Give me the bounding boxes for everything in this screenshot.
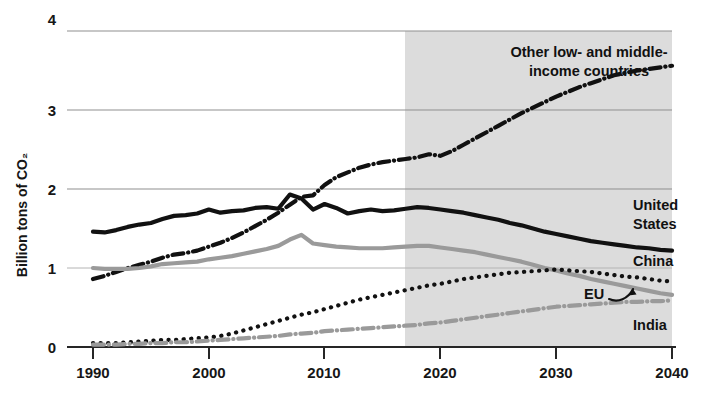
india-label: India: [633, 317, 668, 333]
y-axis-title: Billion tons of CO₂: [14, 153, 30, 277]
united-states-label-line2: States: [633, 216, 677, 232]
xtick-label-2000: 2000: [192, 364, 225, 381]
eu-label: EU: [584, 286, 604, 302]
chart-canvas: 1990 2000 2010 2020 2030 2040 0 1 2 3 4 …: [0, 0, 705, 409]
ytick-label-1: 1: [48, 260, 56, 277]
xtick-label-2030: 2030: [539, 364, 572, 381]
y-axis: 0 1 2 3 4 Billion tons of CO₂: [14, 11, 57, 356]
x-axis: 1990 2000 2010 2020 2030 2040: [67, 347, 689, 381]
xtick-label-2020: 2020: [423, 364, 456, 381]
co2-emissions-chart: 1990 2000 2010 2020 2030 2040 0 1 2 3 4 …: [0, 0, 705, 409]
china-label: China: [633, 253, 674, 269]
ytick-label-3: 3: [48, 102, 56, 119]
ytick-label-2: 2: [48, 181, 56, 198]
xtick-label-2010: 2010: [307, 364, 340, 381]
x-axis-ticks: [93, 347, 672, 359]
xtick-label-1990: 1990: [76, 364, 109, 381]
xtick-label-2040: 2040: [655, 364, 688, 381]
ytick-label-4: 4: [48, 11, 57, 28]
ytick-label-0: 0: [48, 339, 56, 356]
other-lmi-label-line1: Other low- and middle-: [510, 44, 667, 60]
united-states-label-line1: United: [633, 197, 678, 213]
other-lmi-label-line2: income countries: [529, 63, 649, 79]
